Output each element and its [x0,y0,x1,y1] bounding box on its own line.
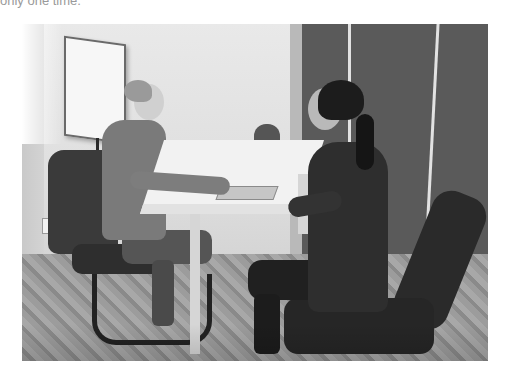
edge-fade [22,24,62,144]
right-person-torso [308,142,388,312]
meeting-photo [22,24,488,361]
left-person-shin [152,260,174,326]
floor-shadow [22,324,488,361]
right-person-hair [318,80,364,120]
left-person-hair-bun [124,80,152,102]
right-person-ponytail [356,114,374,170]
caption-text: only one time. [0,0,81,8]
